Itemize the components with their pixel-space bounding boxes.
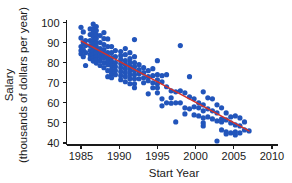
trendline-layer	[81, 41, 249, 131]
x-axis-tick-label: 2000	[183, 150, 207, 162]
data-point	[164, 100, 169, 105]
data-point	[127, 50, 132, 55]
data-point	[123, 46, 128, 51]
data-point	[219, 105, 224, 110]
data-point	[224, 131, 229, 136]
data-point	[118, 77, 123, 82]
data-point	[169, 95, 174, 100]
data-point	[219, 127, 224, 132]
data-point	[164, 72, 169, 77]
data-point	[201, 108, 206, 113]
data-point	[159, 73, 164, 78]
data-point	[159, 96, 164, 101]
data-point	[228, 130, 233, 135]
data-point	[132, 54, 137, 59]
data-point	[141, 65, 146, 70]
data-point	[150, 66, 155, 71]
data-point	[141, 80, 146, 85]
data-point	[155, 58, 160, 63]
data-point	[201, 123, 206, 128]
data-point	[205, 95, 210, 100]
data-point	[78, 35, 83, 40]
data-point	[237, 130, 242, 135]
data-point	[150, 73, 155, 78]
x-axis-title: Start Year	[149, 167, 200, 179]
y-axis-tick-label: 50	[47, 117, 59, 129]
data-point	[146, 78, 151, 83]
data-point	[191, 104, 196, 109]
x-axis-tick-label: 1985	[69, 150, 93, 162]
data-point	[78, 25, 83, 30]
data-point	[201, 89, 206, 94]
data-point	[228, 114, 233, 119]
data-point	[214, 118, 219, 123]
data-point	[127, 76, 132, 81]
data-point	[182, 90, 187, 95]
data-point	[233, 113, 238, 118]
data-point	[242, 119, 247, 124]
y-axis: 405060708090100	[41, 17, 66, 150]
data-point	[81, 29, 86, 34]
data-point	[109, 44, 114, 49]
data-point	[173, 100, 178, 105]
data-point	[101, 30, 106, 35]
data-point	[219, 119, 224, 124]
data-point	[123, 74, 128, 79]
y-axis-tick-label: 100	[41, 17, 59, 29]
x-axis-tick-label: 2005	[222, 150, 246, 162]
data-point	[210, 96, 215, 101]
plot-points-layer	[78, 22, 251, 144]
data-point	[136, 62, 141, 67]
data-point	[146, 91, 151, 96]
data-point	[83, 50, 88, 55]
data-point	[132, 76, 137, 81]
data-point	[127, 81, 132, 86]
data-point	[146, 68, 151, 73]
data-point	[224, 110, 229, 115]
data-point	[178, 100, 183, 105]
y-axis-tick-label: 90	[47, 37, 59, 49]
data-point	[132, 85, 137, 90]
y-axis-title-line1: Salary	[3, 68, 15, 101]
x-axis-tick-label: 2010	[260, 150, 284, 162]
data-point	[155, 72, 160, 77]
data-point	[169, 101, 174, 106]
data-point	[196, 105, 201, 110]
data-point	[132, 37, 137, 42]
data-point	[214, 102, 219, 107]
data-point	[113, 72, 118, 77]
regression-trendline	[81, 41, 249, 131]
data-point	[113, 48, 118, 53]
y-axis-tick-label: 70	[47, 77, 59, 89]
y-axis-tick-label: 80	[47, 57, 59, 69]
y-axis-tick-label: 40	[47, 137, 59, 149]
data-point	[159, 103, 164, 108]
data-point	[237, 115, 242, 120]
x-axis: 198519901995200020052010	[67, 145, 285, 162]
y-axis-title-line2: (thousands of dollars per year)	[17, 7, 29, 163]
data-point	[173, 119, 178, 124]
data-point	[187, 74, 192, 79]
data-point	[182, 105, 187, 110]
data-point	[187, 106, 192, 111]
x-axis-tick-label: 1995	[145, 150, 169, 162]
data-point	[210, 116, 215, 121]
data-point	[105, 36, 110, 41]
data-point	[196, 113, 201, 118]
data-point	[201, 115, 206, 120]
data-point	[123, 52, 128, 57]
data-point	[150, 85, 155, 90]
data-point	[83, 63, 88, 68]
data-point	[155, 85, 160, 90]
data-point	[214, 138, 219, 143]
salary-vs-start-year-chart: 198519901995200020052010 405060708090100…	[0, 0, 292, 183]
data-point	[205, 114, 210, 119]
x-axis-tick-label: 1990	[107, 150, 131, 162]
data-point	[155, 90, 160, 95]
data-point	[123, 79, 128, 84]
data-point	[233, 132, 238, 137]
y-axis-tick-label: 60	[47, 97, 59, 109]
data-point	[136, 76, 141, 81]
data-point	[182, 111, 187, 116]
data-point	[178, 43, 183, 48]
